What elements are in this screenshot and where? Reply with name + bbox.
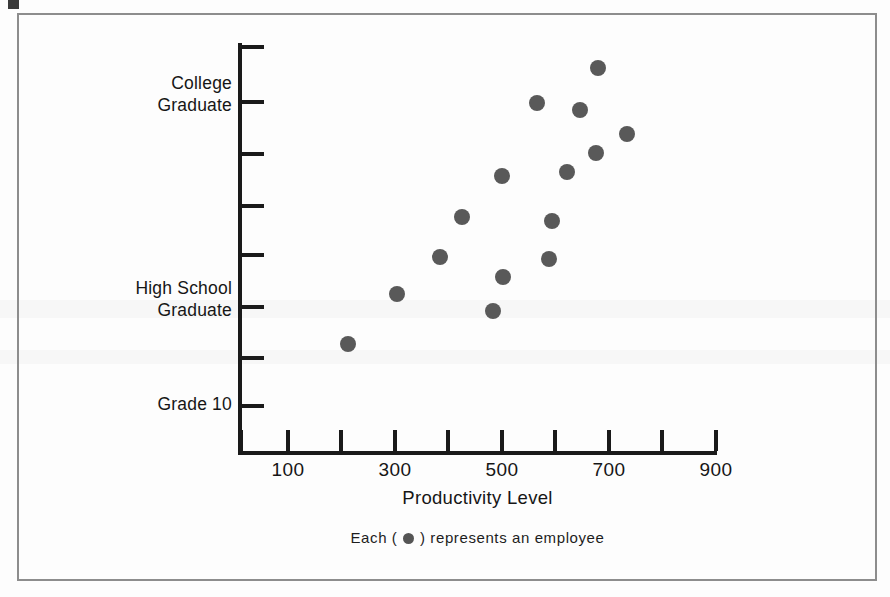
y-axis-tick-0 <box>242 45 264 49</box>
x-axis-label-300: 300 <box>360 459 430 481</box>
y-axis-tick-6 <box>242 356 264 360</box>
x-axis-tick-1 <box>339 430 343 451</box>
x-axis-tick-8 <box>714 430 718 451</box>
figure-page: College GraduateHigh School GraduateGrad… <box>0 0 890 597</box>
y-axis-tick-1 <box>242 100 264 104</box>
data-point <box>544 213 560 229</box>
caption-text-before: Each ( <box>350 529 397 546</box>
y-axis-line <box>238 43 242 455</box>
x-axis-tick-5 <box>553 430 557 451</box>
data-point <box>389 286 405 302</box>
x-axis-line <box>238 451 717 455</box>
data-point <box>432 249 448 265</box>
data-point <box>340 336 356 352</box>
data-point <box>590 60 606 76</box>
y-axis-tick-7 <box>242 404 264 408</box>
data-point <box>485 303 501 319</box>
y-axis-tick-5 <box>242 305 264 309</box>
x-axis-tick-4 <box>500 430 504 451</box>
x-axis-tick-9 <box>239 430 243 451</box>
y-axis-tick-2 <box>242 152 264 156</box>
x-axis-tick-6 <box>607 430 611 451</box>
x-axis-tick-2 <box>393 430 397 451</box>
x-axis-tick-7 <box>660 430 664 451</box>
x-axis-label-900: 900 <box>681 459 751 481</box>
x-axis-label-100: 100 <box>253 459 323 481</box>
y-axis-tick-4 <box>242 253 264 257</box>
x-axis-tick-3 <box>446 430 450 451</box>
data-point <box>619 126 635 142</box>
x-axis-label-500: 500 <box>467 459 537 481</box>
y-axis-tick-3 <box>242 204 264 208</box>
figure-caption: Each ( ) represents an employee <box>238 529 717 546</box>
data-point <box>495 269 511 285</box>
x-axis-label-700: 700 <box>574 459 644 481</box>
data-point <box>454 209 470 225</box>
data-point <box>572 102 588 118</box>
data-point <box>588 145 604 161</box>
scatter-plot: College GraduateHigh School GraduateGrad… <box>0 0 890 597</box>
caption-text-after: ) represents an employee <box>420 529 605 546</box>
y-axis-label-0: College Graduate <box>32 72 232 116</box>
data-point <box>494 168 510 184</box>
data-point <box>529 95 545 111</box>
y-axis-label-2: Grade 10 <box>32 393 232 415</box>
x-axis-tick-0 <box>286 430 290 451</box>
y-axis-label-1: High School Graduate <box>32 277 232 321</box>
legend-marker-icon <box>403 533 414 544</box>
x-axis-title: Productivity Level <box>238 487 717 509</box>
data-point <box>559 164 575 180</box>
data-point <box>541 251 557 267</box>
